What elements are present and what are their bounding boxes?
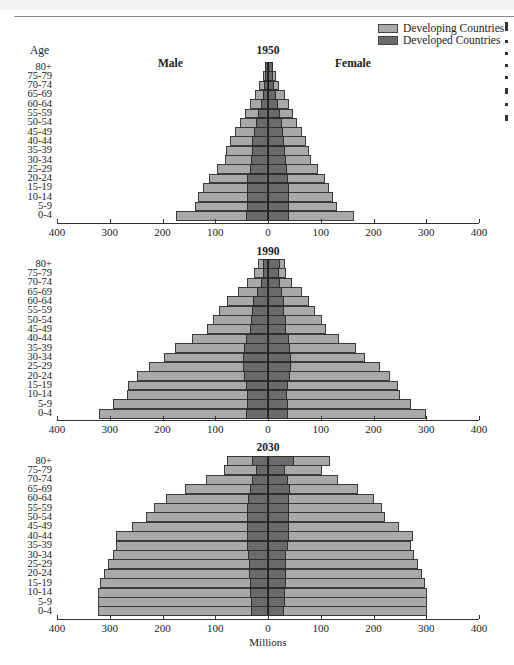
clipped-page-header bbox=[0, 0, 514, 10]
x-tick bbox=[57, 416, 58, 420]
x-tick-label: 200 bbox=[154, 622, 171, 634]
x-tick-label: 200 bbox=[154, 226, 171, 238]
female-label: Female bbox=[335, 57, 371, 69]
x-tick bbox=[57, 219, 58, 223]
clipped-margin-text bbox=[505, 22, 514, 152]
x-tick bbox=[374, 615, 375, 619]
x-tick-label: 0 bbox=[265, 423, 271, 435]
x-tick-label: 100 bbox=[313, 423, 330, 435]
x-tick-label: 0 bbox=[265, 622, 271, 634]
x-tick bbox=[479, 219, 480, 223]
x-tick-label: 300 bbox=[102, 423, 119, 435]
x-tick-label: 200 bbox=[365, 423, 382, 435]
x-tick-label: 300 bbox=[418, 226, 435, 238]
age-label: 0-4 bbox=[38, 408, 52, 417]
x-axis bbox=[57, 420, 479, 421]
x-tick-label: 0 bbox=[265, 226, 271, 238]
male-developing-bar bbox=[99, 409, 268, 419]
zero-line bbox=[268, 456, 269, 616]
female-developed-bar bbox=[268, 211, 289, 221]
x-tick-label: 300 bbox=[102, 226, 119, 238]
legend: Developing Countries Developed Countries bbox=[378, 22, 504, 46]
zero-line bbox=[268, 259, 269, 418]
age-label: 35-39 bbox=[28, 540, 53, 549]
male-developing-bar bbox=[98, 606, 268, 616]
male-developed-bar bbox=[246, 409, 268, 419]
female-developing-bar bbox=[268, 409, 426, 419]
age-label: 0-4 bbox=[38, 606, 52, 615]
x-axis-title: Millions bbox=[0, 636, 514, 648]
x-tick bbox=[163, 416, 164, 420]
x-tick-label: 300 bbox=[418, 622, 435, 634]
x-tick-label: 200 bbox=[154, 423, 171, 435]
x-axis bbox=[57, 223, 479, 224]
x-tick bbox=[57, 615, 58, 619]
x-tick-label: 400 bbox=[49, 622, 66, 634]
x-tick-label: 200 bbox=[365, 622, 382, 634]
age-label: 0-4 bbox=[38, 210, 52, 219]
x-tick bbox=[479, 416, 480, 420]
x-axis bbox=[57, 619, 479, 620]
x-tick-label: 400 bbox=[49, 226, 66, 238]
female-developing-bar bbox=[268, 606, 427, 616]
x-tick bbox=[268, 219, 269, 223]
male-developed-bar bbox=[251, 606, 268, 616]
chart-title: 1990 bbox=[0, 245, 514, 257]
age-label: 35-39 bbox=[28, 145, 53, 154]
x-tick bbox=[426, 219, 427, 223]
female-developed-bar bbox=[268, 409, 288, 419]
chart-title: 2030 bbox=[0, 441, 514, 453]
x-tick-label: 100 bbox=[313, 622, 330, 634]
legend-item-developing: Developing Countries bbox=[378, 22, 504, 34]
male-label: Male bbox=[158, 57, 183, 69]
x-tick-label: 100 bbox=[207, 226, 224, 238]
x-tick-label: 400 bbox=[471, 423, 488, 435]
x-tick bbox=[321, 416, 322, 420]
developing-swatch-icon bbox=[378, 24, 398, 33]
x-tick bbox=[110, 416, 111, 420]
x-tick bbox=[163, 219, 164, 223]
x-tick-label: 400 bbox=[471, 622, 488, 634]
x-tick bbox=[163, 615, 164, 619]
age-label: 60-64 bbox=[28, 493, 53, 502]
x-tick bbox=[215, 615, 216, 619]
x-tick-label: 200 bbox=[365, 226, 382, 238]
x-tick bbox=[215, 416, 216, 420]
zero-line bbox=[268, 62, 269, 220]
x-tick bbox=[268, 416, 269, 420]
x-tick bbox=[110, 219, 111, 223]
x-tick bbox=[321, 219, 322, 223]
x-tick bbox=[268, 615, 269, 619]
x-tick bbox=[426, 615, 427, 619]
x-tick bbox=[479, 615, 480, 619]
x-tick-label: 400 bbox=[49, 423, 66, 435]
x-tick-label: 300 bbox=[418, 423, 435, 435]
x-tick bbox=[215, 219, 216, 223]
x-tick-label: 100 bbox=[207, 622, 224, 634]
age-label: 10-14 bbox=[28, 587, 53, 596]
female-developed-bar bbox=[268, 606, 284, 616]
age-label: 70-74 bbox=[28, 277, 53, 286]
x-tick-label: 400 bbox=[471, 226, 488, 238]
header-rule bbox=[14, 16, 514, 17]
x-tick bbox=[374, 219, 375, 223]
x-tick bbox=[374, 416, 375, 420]
male-developed-bar bbox=[246, 211, 268, 221]
x-tick-label: 300 bbox=[102, 622, 119, 634]
x-tick bbox=[426, 416, 427, 420]
chart-title: 1950 bbox=[0, 44, 514, 56]
x-tick-label: 100 bbox=[207, 423, 224, 435]
x-tick bbox=[110, 615, 111, 619]
x-tick bbox=[321, 615, 322, 619]
legend-label-developing: Developing Countries bbox=[403, 22, 504, 34]
x-tick-label: 100 bbox=[313, 226, 330, 238]
